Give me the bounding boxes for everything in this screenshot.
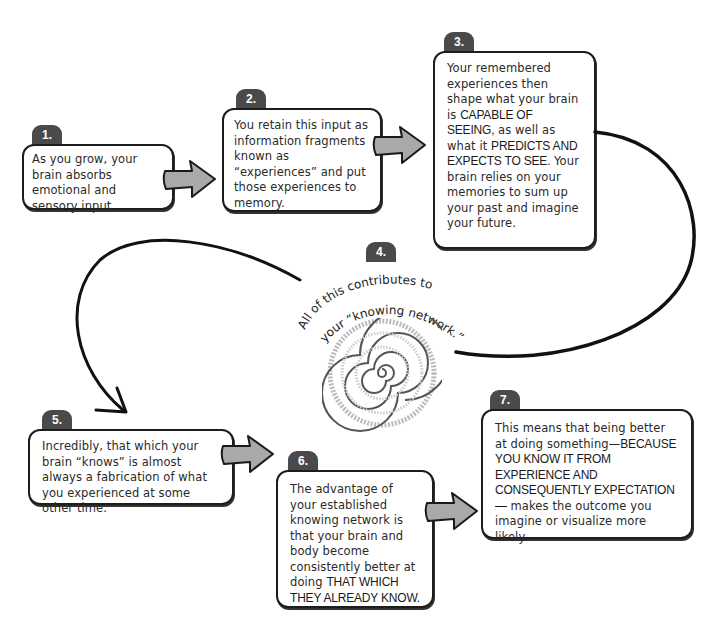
curve-4-to-5 — [77, 240, 300, 410]
step-7-badge: 7. — [490, 390, 520, 410]
step-1-badge: 1. — [32, 125, 62, 145]
step-7-text-part-2: makes the outcome you imagine or visuali… — [495, 499, 652, 544]
arrow-1-to-2 — [162, 157, 218, 201]
arrowhead-icon — [96, 388, 126, 412]
step-2-text: You retain this input as information fra… — [234, 118, 370, 211]
right-arrow-icon — [220, 432, 276, 476]
step-3-text: Your remembered experiences then shape w… — [447, 61, 582, 232]
step-6-text-part-1: The advantage of your established knowin… — [290, 482, 415, 589]
right-arrow-icon — [424, 489, 480, 533]
step-6-badge: 6. — [288, 451, 318, 471]
right-arrow-icon — [372, 123, 428, 167]
step-6-text: The advantage of your established knowin… — [290, 482, 420, 606]
right-arrow-icon — [162, 157, 218, 201]
step-3-box: Your remembered experiences then shape w… — [433, 51, 596, 249]
arrow-5-to-6 — [220, 432, 276, 476]
step-7-text: This means that being better at doing so… — [495, 421, 679, 545]
step-3-badge: 3. — [444, 32, 474, 52]
step-1-box: As you grow, your brain absorbs emotiona… — [22, 144, 174, 210]
arrow-6-to-7 — [424, 489, 480, 533]
arrow-2-to-3 — [372, 123, 428, 167]
step-5-box: Incredibly, that which your brain “knows… — [28, 429, 234, 505]
step-5-text: Incredibly, that which your brain “knows… — [42, 439, 220, 517]
step-1-text: As you grow, your brain absorbs emotiona… — [32, 152, 164, 214]
step-2-badge: 2. — [236, 89, 266, 109]
step-6-box: The advantage of your established knowin… — [276, 470, 434, 608]
step-7-box: This means that being better at doing so… — [481, 409, 693, 539]
step-2-box: You retain this input as information fra… — [222, 108, 382, 212]
knowing-network-spiral-icon — [322, 318, 442, 438]
step-5-badge: 5. — [42, 410, 72, 430]
